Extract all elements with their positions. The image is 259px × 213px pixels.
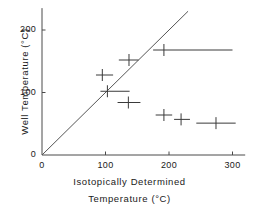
x-axis-title-line2: Temperature (°C) (0, 193, 259, 204)
axes (42, 8, 245, 155)
data-point (153, 44, 232, 56)
x-tick-label: 100 (92, 160, 120, 170)
data-point (100, 85, 129, 97)
y-tick-label: 0 (8, 149, 36, 159)
x-tick-label: 300 (219, 160, 247, 170)
scatter-chart: Well Temperature (°C) Isotopically Deter… (0, 0, 259, 213)
one-to-one-line (42, 11, 188, 155)
x-axis-title-line1: Isotopically Determined (0, 176, 259, 187)
data-point (156, 109, 173, 121)
y-tick-label: 100 (8, 87, 36, 97)
y-tick-label: 200 (8, 24, 36, 34)
data-point (196, 117, 235, 129)
data-point (96, 69, 113, 81)
x-tick-label: 200 (155, 160, 183, 170)
x-tick-label: 0 (28, 160, 56, 170)
reference-line-segment (42, 11, 188, 155)
data-point (119, 54, 139, 66)
data-point (174, 113, 190, 125)
data-point (118, 97, 141, 109)
data-points (96, 44, 236, 129)
